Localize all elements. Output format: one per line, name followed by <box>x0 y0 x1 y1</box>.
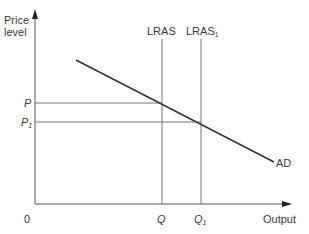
y-axis-arrow-icon <box>32 9 38 19</box>
p-label: P <box>24 97 31 109</box>
q1-label: Q1 <box>194 213 206 229</box>
ad-label: AD <box>276 157 291 169</box>
y-axis-label-line2: level <box>4 26 29 38</box>
lras1-label: LRAS1 <box>186 25 219 41</box>
ad-curve <box>76 60 274 162</box>
y-axis-label: Price level <box>4 14 29 38</box>
x-axis-label: Output <box>263 213 296 225</box>
y-axis-label-line1: Price <box>4 14 29 26</box>
lras-label: LRAS <box>147 25 176 37</box>
origin-label: 0 <box>24 213 30 225</box>
x-axis-arrow-icon <box>282 201 292 207</box>
q-label: Q <box>157 213 166 225</box>
p1-label: P1 <box>21 116 32 132</box>
